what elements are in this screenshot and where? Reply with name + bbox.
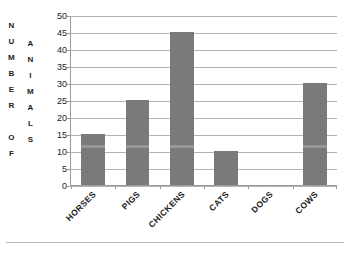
y-axis-title-letter: L bbox=[28, 120, 33, 128]
y-axis-title-letter: E bbox=[9, 86, 14, 94]
bar-cows[interactable] bbox=[303, 83, 327, 185]
bar-chickens[interactable] bbox=[170, 32, 194, 185]
chart-figure: NUMBER OF ANIMALS 50454035302520151050 H… bbox=[0, 0, 350, 256]
x-axis-label-text: CATS bbox=[207, 189, 231, 213]
bar-slot-dogs[interactable] bbox=[248, 16, 292, 185]
y-axis-tick-label: 20 bbox=[45, 114, 67, 123]
y-axis-tick-label: 25 bbox=[45, 97, 67, 106]
x-axis-label-text: HORSES bbox=[64, 189, 98, 223]
x-label-slot-cats: CATS bbox=[204, 187, 248, 243]
x-axis-label-text: PIGS bbox=[120, 189, 143, 212]
y-axis-tick-label: 0 bbox=[45, 182, 67, 191]
bar-series bbox=[71, 16, 337, 185]
y-axis-title-letter: I bbox=[29, 72, 31, 80]
x-label-slot-dogs: DOGS bbox=[248, 187, 292, 243]
x-label-slot-chickens: CHICKENS bbox=[160, 187, 204, 243]
bar-pigs[interactable] bbox=[126, 100, 150, 185]
y-axis-title-letter: N bbox=[8, 22, 14, 30]
y-axis-title-letter: F bbox=[9, 150, 14, 158]
y-axis-title-letter bbox=[10, 118, 12, 126]
y-axis-tick-labels: 50454035302520151050 bbox=[44, 16, 67, 186]
y-axis-title-inner: ANIMALS bbox=[27, 40, 34, 152]
y-axis-tick-label: 50 bbox=[45, 12, 67, 21]
y-axis-title-letter: O bbox=[8, 134, 14, 142]
y-axis-title-letter: M bbox=[27, 88, 34, 96]
y-axis-title-letter: B bbox=[8, 70, 14, 78]
x-axis-label-text: COWS bbox=[293, 189, 320, 216]
y-axis-title-letter: S bbox=[28, 136, 33, 144]
y-axis-title-outer: NUMBER OF bbox=[8, 22, 15, 166]
y-axis-tick-label: 15 bbox=[45, 131, 67, 140]
y-axis-title-letter: U bbox=[8, 38, 14, 46]
x-axis-category-labels: HORSESPIGSCHICKENSCATSDOGSCOWS bbox=[71, 187, 337, 243]
figure-title-cutoff bbox=[0, 0, 350, 7]
y-axis-title-letter: M bbox=[8, 54, 15, 62]
y-axis-tick-label: 40 bbox=[45, 46, 67, 55]
y-axis-tick-label: 30 bbox=[45, 80, 67, 89]
x-label-slot-horses: HORSES bbox=[71, 187, 115, 243]
bar-slot-cows[interactable] bbox=[293, 16, 337, 185]
y-axis-title-letter: A bbox=[27, 104, 33, 112]
y-axis-title-letter: N bbox=[27, 56, 33, 64]
y-axis-title-letter: A bbox=[27, 40, 33, 48]
y-axis-tick-label: 45 bbox=[45, 29, 67, 38]
plot-area bbox=[70, 16, 337, 186]
y-axis-tick-label: 35 bbox=[45, 63, 67, 72]
y-axis-title-letter: R bbox=[8, 102, 14, 110]
bar-slot-pigs[interactable] bbox=[115, 16, 159, 185]
bar-slot-chickens[interactable] bbox=[160, 16, 204, 185]
y-axis-tick-label: 5 bbox=[45, 165, 67, 174]
x-label-slot-cows: COWS bbox=[293, 187, 337, 243]
figure-bottom-rule bbox=[6, 242, 344, 243]
bar-slot-horses[interactable] bbox=[71, 16, 115, 185]
y-axis-tick-label: 10 bbox=[45, 148, 67, 157]
x-axis-label-text: DOGS bbox=[250, 189, 276, 215]
